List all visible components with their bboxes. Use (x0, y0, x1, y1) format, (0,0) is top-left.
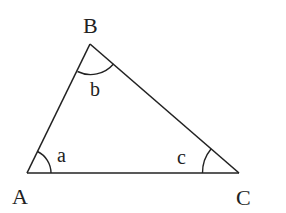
angle-label-a: a (57, 144, 66, 166)
triangle-figure: B A C a b c (0, 0, 286, 213)
vertex-label-c: C (236, 185, 251, 210)
angle-label-b: b (90, 78, 100, 100)
angle-arc-b (78, 64, 114, 75)
side-bc (90, 44, 239, 173)
angle-label-c: c (177, 146, 186, 168)
vertex-label-b: B (83, 13, 98, 38)
angle-arc-a (38, 152, 52, 174)
angle-arc-c (202, 149, 211, 173)
vertex-label-a: A (12, 184, 28, 209)
triangle-diagram: B A C a b c (0, 0, 286, 213)
